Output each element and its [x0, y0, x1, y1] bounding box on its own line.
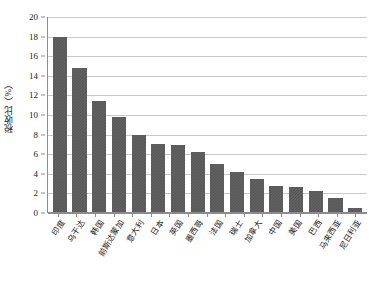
bar[interactable]: [348, 208, 362, 212]
x-axis-label-slot: 巴西: [306, 218, 326, 282]
bar[interactable]: [53, 37, 67, 213]
y-axis-tick-label: 8: [34, 130, 39, 139]
x-axis-tick-mark: [281, 213, 282, 217]
x-axis-tick-mark: [337, 213, 338, 217]
x-axis-label-slot: 墨西哥: [187, 218, 207, 282]
x-axis-tick-label: 韩国: [90, 219, 106, 237]
plot-area: [47, 17, 367, 213]
y-axis-tick-mark: [41, 173, 45, 174]
bar-slot: [345, 17, 365, 212]
x-axis-tick-mark: [95, 213, 96, 217]
bar[interactable]: [210, 164, 224, 212]
y-axis-tick-label: 20: [29, 13, 38, 22]
x-axis-label-slot: 法国: [207, 218, 227, 282]
y-axis-tick-label: 4: [34, 169, 39, 178]
bar[interactable]: [328, 198, 342, 212]
y-axis-tick-mark: [41, 56, 45, 57]
bar-slot: [148, 17, 168, 212]
x-axis-tick-mark: [244, 213, 245, 217]
bar-slot: [247, 17, 267, 212]
bar[interactable]: [151, 144, 165, 212]
x-axis-tick-label: 美国: [287, 219, 303, 237]
x-axis-tick-labels: 印度乌干达韩国前斯达蒙加意大利日本英国墨西哥法国瑞士加拿大中国美国巴西马来西亚尼…: [47, 218, 367, 282]
x-axis-tick-label: 英国: [169, 219, 185, 237]
bar-slot: [89, 17, 109, 212]
y-axis-tick-label: 12: [29, 91, 38, 100]
y-axis-tick-labels: 02468101214161820: [0, 17, 45, 213]
bar-slot: [306, 17, 326, 212]
y-axis-tick-label: 0: [34, 209, 39, 218]
x-axis-tick-mark: [114, 213, 115, 217]
x-axis-tick-mark: [300, 213, 301, 217]
y-axis-tick-label: 10: [29, 111, 38, 120]
bar-slot: [227, 17, 247, 212]
x-axis-tick-mark: [76, 213, 77, 217]
x-axis-label-slot: 乌干达: [69, 218, 89, 282]
bar-slot: [286, 17, 306, 212]
x-axis-label-slot: 英国: [168, 218, 188, 282]
y-axis-tick-mark: [41, 134, 45, 135]
bar[interactable]: [269, 186, 283, 212]
bar[interactable]: [132, 135, 146, 212]
bar[interactable]: [72, 68, 86, 212]
bar-series: [48, 17, 367, 212]
x-axis-label-slot: 马来西亚: [326, 218, 346, 282]
bar-slot: [50, 17, 70, 212]
bar-slot: [208, 17, 228, 212]
bar-slot: [168, 17, 188, 212]
bar[interactable]: [230, 172, 244, 212]
bar[interactable]: [250, 179, 264, 212]
y-axis-tick-mark: [41, 193, 45, 194]
bar-chart: 税收比（%） 02468101214161820 印度乌干达韩国前斯达蒙加意大利…: [0, 0, 388, 284]
x-axis-tick-mark: [132, 213, 133, 217]
bar[interactable]: [92, 101, 106, 212]
x-axis-tick-mark: [355, 213, 356, 217]
bar[interactable]: [112, 117, 126, 212]
y-axis-tick-mark: [41, 95, 45, 96]
x-axis-label-slot: 日本: [148, 218, 168, 282]
x-axis-tick-mark: [188, 213, 189, 217]
y-axis-tick-label: 16: [29, 52, 38, 61]
x-axis-tick-label: 意大利: [125, 219, 145, 244]
bar-slot: [326, 17, 346, 212]
x-axis-tick-label: 加拿大: [244, 219, 264, 244]
y-axis-tick-mark: [41, 36, 45, 37]
y-axis-tick-mark: [41, 75, 45, 76]
x-axis-label-slot: 加拿大: [247, 218, 267, 282]
x-axis-tick-mark: [262, 213, 263, 217]
y-axis-tick-label: 6: [34, 150, 39, 159]
y-axis-tick-mark: [41, 17, 45, 18]
bar[interactable]: [309, 191, 323, 212]
y-axis-tick-label: 14: [29, 71, 38, 80]
x-axis-tick-label: 乌干达: [66, 219, 86, 244]
x-axis-label-slot: 尼日利亚: [345, 218, 365, 282]
bar-slot: [188, 17, 208, 212]
x-axis-label-slot: 中国: [266, 218, 286, 282]
x-axis-tick-mark: [151, 213, 152, 217]
bar-slot: [267, 17, 287, 212]
bar-slot: [70, 17, 90, 212]
y-axis-tick-label: 18: [29, 32, 38, 41]
x-axis-tick-label: 墨西哥: [184, 219, 204, 244]
x-axis-tick-label: 巴西: [307, 219, 323, 237]
x-axis-tick-label: 印度: [50, 219, 66, 237]
x-axis-tick-mark: [169, 213, 170, 217]
bar[interactable]: [289, 187, 303, 212]
bar-slot: [109, 17, 129, 212]
x-axis-label-slot: 印度: [49, 218, 69, 282]
x-axis-tick-label: 日本: [149, 219, 165, 237]
x-axis-tick-label: 中国: [268, 219, 284, 237]
bar-slot: [129, 17, 149, 212]
x-axis-label-slot: 瑞士: [227, 218, 247, 282]
bar[interactable]: [191, 152, 205, 212]
y-axis-tick-label: 2: [34, 189, 39, 198]
x-axis-label-slot: 意大利: [128, 218, 148, 282]
bar[interactable]: [171, 145, 185, 212]
y-axis-tick-mark: [41, 154, 45, 155]
y-axis-tick-mark: [41, 115, 45, 116]
x-axis-tick-mark: [225, 213, 226, 217]
x-axis-label-slot: 前斯达蒙加: [108, 218, 128, 282]
y-axis-tick-mark: [41, 213, 45, 214]
x-axis-label-slot: 美国: [286, 218, 306, 282]
x-axis-tick-label: 瑞士: [228, 219, 244, 237]
